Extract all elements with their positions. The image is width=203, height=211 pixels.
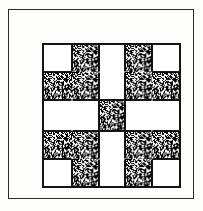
- quilt-patch: [125, 131, 152, 160]
- quilt-patch: [43, 100, 72, 131]
- quilt-patch: [99, 72, 126, 101]
- quilt-patch: [152, 131, 180, 160]
- quilt-patch: [72, 44, 99, 72]
- quilt-patch: [43, 159, 72, 187]
- quilt-patch: [43, 72, 72, 101]
- quilt-block-figure: [0, 0, 203, 211]
- quilt-block-grid: [43, 44, 180, 187]
- quilt-patch: [99, 44, 126, 72]
- quilt-patch: [152, 44, 180, 72]
- quilt-patch: [72, 100, 99, 131]
- quilt-patch: [72, 159, 99, 187]
- quilt-patch: [43, 44, 72, 72]
- quilt-patch: [125, 44, 152, 72]
- quilt-patch: [72, 131, 99, 160]
- quilt-block: [42, 43, 181, 188]
- quilt-patch: [152, 100, 180, 131]
- quilt-patch: [125, 159, 152, 187]
- quilt-patch: [152, 159, 180, 187]
- quilt-patch: [72, 72, 99, 101]
- quilt-patch: [152, 72, 180, 101]
- quilt-patch: [99, 100, 126, 131]
- quilt-patch: [125, 100, 152, 131]
- quilt-patch: [99, 131, 126, 160]
- quilt-patch: [125, 72, 152, 101]
- border-rectangle: [8, 9, 194, 199]
- quilt-patch: [43, 131, 72, 160]
- quilt-patch: [99, 159, 126, 187]
